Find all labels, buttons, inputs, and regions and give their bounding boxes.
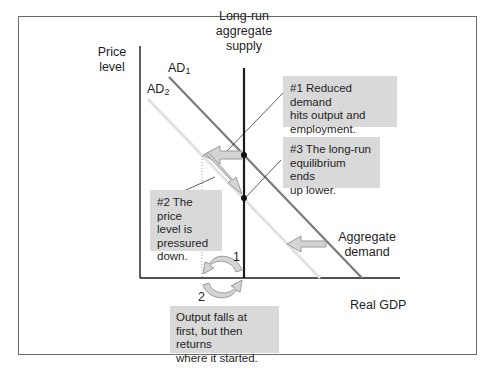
y-axis-label-line1: Price xyxy=(92,45,132,60)
callout-2-line: #2 The price xyxy=(157,196,215,223)
lras-label-line3: supply xyxy=(206,39,282,54)
ad2-label-sub: 2 xyxy=(164,87,169,97)
ad2-label-base: AD xyxy=(147,82,164,96)
callout-price-level: #2 The price level is pressured down. xyxy=(150,190,222,251)
callout-4-line: first, but then returns xyxy=(176,325,273,352)
callout-3-line: equilibrium ends xyxy=(290,157,373,184)
leader-line-3 xyxy=(247,160,281,196)
ad1-label: AD1 xyxy=(168,61,190,79)
callout-4-line: where it started. xyxy=(176,352,273,366)
callout-output-cycle: Output falls at first, but then returns … xyxy=(170,306,279,353)
leader-line-1 xyxy=(226,93,283,152)
ad1-label-base: AD xyxy=(168,61,185,75)
lras-label: Long-run aggregate supply xyxy=(206,9,282,54)
callout-2-line: down. xyxy=(157,250,215,264)
initial-equilibrium-point xyxy=(241,152,247,158)
cycle-step-2-label: 2 xyxy=(198,290,205,305)
callout-1-line: hits output and xyxy=(290,109,390,123)
callout-long-run-equilibrium: #3 The long-run equilibrium ends up lowe… xyxy=(283,137,380,188)
x-axis-label: Real GDP xyxy=(350,298,406,313)
callout-reduced-demand: #1 Reduced demand hits output and employ… xyxy=(283,76,397,127)
cycle-arrow-2 xyxy=(203,280,242,298)
ad2-label: AD2 xyxy=(147,82,169,100)
callout-2-line: level is xyxy=(157,223,215,237)
cycle-step-1-label: 1 xyxy=(233,250,240,265)
callout-3-line: #3 The long-run xyxy=(290,143,373,157)
lras-label-line1: Long-run xyxy=(206,9,282,24)
aggregate-demand-label-line2: demand xyxy=(334,245,400,260)
aggregate-demand-label-line1: Aggregate xyxy=(334,230,400,245)
callout-1-line: employment. xyxy=(290,123,390,137)
callout-1-line: #1 Reduced demand xyxy=(290,82,390,109)
callout-2-line: pressured xyxy=(157,237,215,251)
leader-line-2 xyxy=(186,177,215,190)
new-equilibrium-point xyxy=(241,195,247,201)
aggregate-demand-label: Aggregate demand xyxy=(334,230,400,260)
ad1-label-sub: 1 xyxy=(185,66,190,76)
callout-3-line: up lower. xyxy=(290,184,373,198)
callout-4-line: Output falls at xyxy=(176,311,273,325)
y-axis-label-line2: level xyxy=(92,60,132,75)
y-axis-label: Price level xyxy=(92,45,132,75)
lras-label-line2: aggregate xyxy=(206,24,282,39)
